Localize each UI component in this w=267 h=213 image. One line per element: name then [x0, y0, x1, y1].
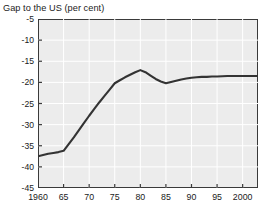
x-axis-label: 75 [110, 192, 120, 202]
x-axis-label: 85 [161, 192, 171, 202]
x-axis-label: 95 [212, 192, 222, 202]
x-axis-label: 2000 [233, 192, 253, 202]
x-axis-label: 70 [84, 192, 94, 202]
x-axis-tick-labels: 1960657075808590952000 [0, 0, 267, 213]
chart-container: Gap to the US (per cent) -5-10-15-20-25-… [0, 0, 267, 213]
x-axis-label: 90 [187, 192, 197, 202]
x-axis-label: 65 [59, 192, 69, 202]
x-axis-label: 1960 [28, 192, 48, 202]
x-axis-label: 80 [135, 192, 145, 202]
